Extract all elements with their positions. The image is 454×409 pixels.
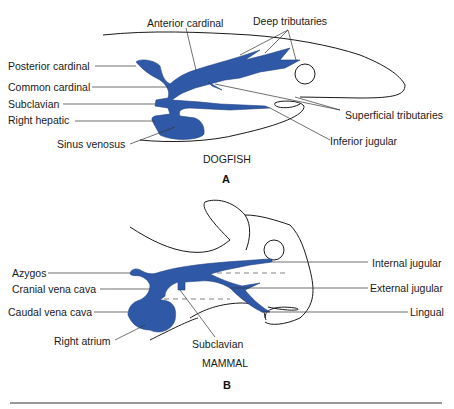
label-inferior-jugular: Inferior jugular xyxy=(330,135,397,147)
label-right-hepatic: Right hepatic xyxy=(8,114,69,126)
caption-dogfish: DOGFISH xyxy=(203,153,251,165)
label-right-atrium: Right atrium xyxy=(54,335,111,347)
label-common-cardinal: Common cardinal xyxy=(8,81,90,93)
panel-letter-a: A xyxy=(222,173,230,185)
label-caudal-vena-cava: Caudal vena cava xyxy=(8,306,92,318)
mammal-veins xyxy=(128,259,272,332)
label-anterior-cardinal: Anterior cardinal xyxy=(147,17,223,29)
label-cranial-vena-cava: Cranial vena cava xyxy=(12,283,96,295)
label-azygos: Azygos xyxy=(12,267,46,279)
label-subclavian-a: Subclavian xyxy=(8,98,59,110)
dogfish-veins xyxy=(136,48,300,139)
label-subclavian-b: Subclavian xyxy=(192,338,243,350)
label-sinus-venosus: Sinus venosus xyxy=(57,138,125,150)
label-superficial-tributaries: Superficial tributaries xyxy=(345,109,443,121)
label-deep-tributaries: Deep tributaries xyxy=(253,15,327,27)
label-lingual: Lingual xyxy=(410,306,444,318)
label-external-jugular: External jugular xyxy=(370,282,443,294)
mammal-leader-lines xyxy=(48,262,408,340)
panel-letter-b: B xyxy=(223,379,231,391)
caption-mammal: MAMMAL xyxy=(202,357,248,369)
label-posterior-cardinal: Posterior cardinal xyxy=(8,60,90,72)
label-internal-jugular: Internal jugular xyxy=(372,257,441,269)
